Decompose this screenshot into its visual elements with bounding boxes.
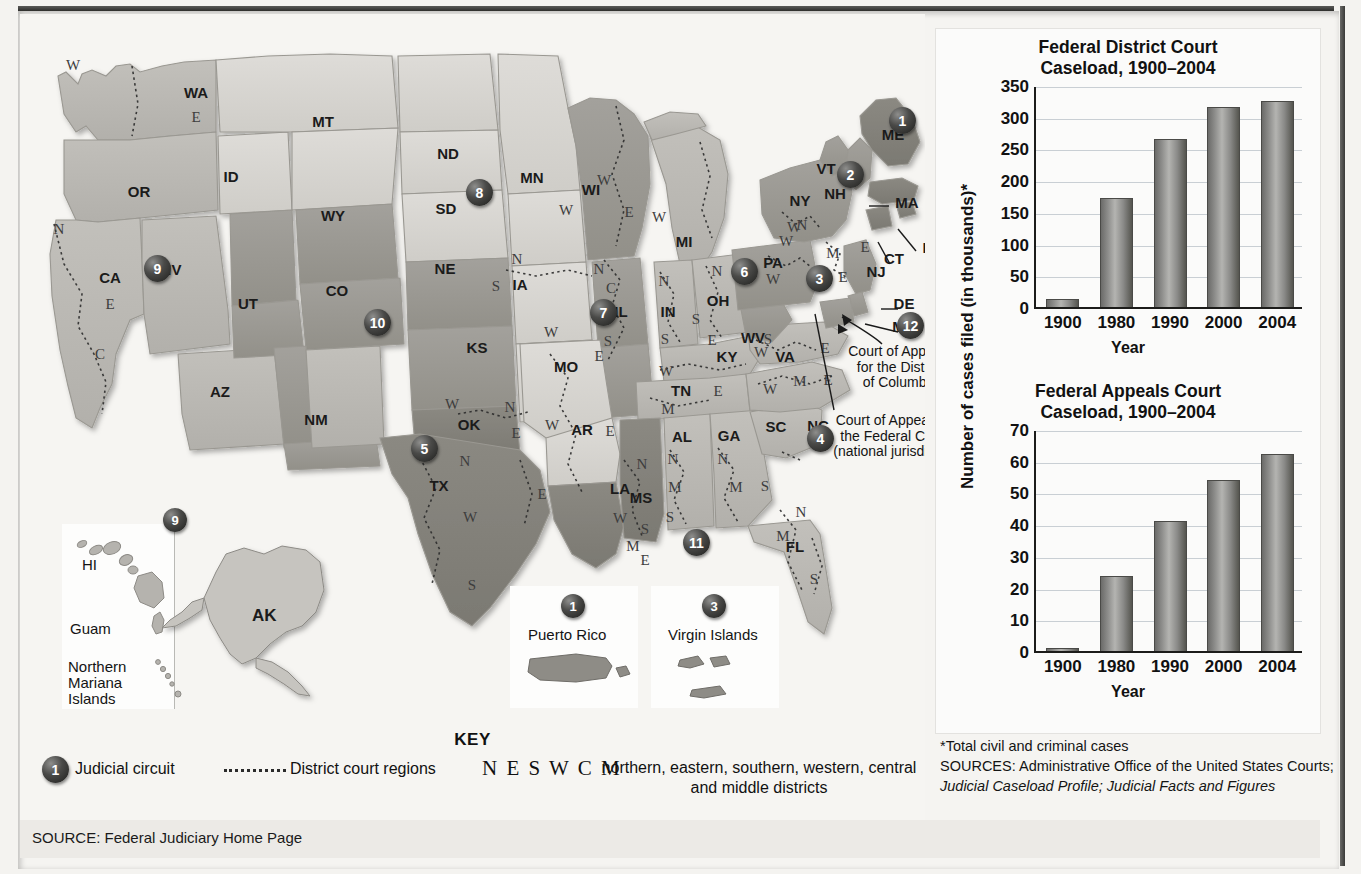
chart-footnote: *Total civil and criminal cases <box>940 736 1340 756</box>
state-label-ga: GA <box>718 427 741 444</box>
district-letter: C <box>606 280 616 296</box>
badge-virgin-islands[interactable]: 3 <box>702 594 726 618</box>
state-label-tn: TN <box>671 382 691 399</box>
chart-notes: *Total civil and criminal cases SOURCES:… <box>940 736 1340 796</box>
map-panel: WAORIDMTWYNVCAUTCOAZNMNDSDNEKSOKTXMNIAMO… <box>20 14 925 726</box>
state-label-va: VA <box>775 348 795 365</box>
state-label-al: AL <box>672 428 692 445</box>
bar-1990 <box>1154 139 1187 307</box>
circuit-badge-6[interactable]: 6 <box>731 258 758 285</box>
chart-sources-line2: Judicial Caseload Profile; Judicial Fact… <box>940 776 1340 796</box>
key-circuit-badge: 1 <box>42 756 69 783</box>
state-label-sd: SD <box>436 200 457 217</box>
circuit-badge-10[interactable]: 10 <box>364 309 391 336</box>
inset-label-virgin-islands: Virgin Islands <box>668 627 758 643</box>
district-letter: W <box>597 172 612 188</box>
district-letter: S <box>764 331 772 347</box>
circuit-badge-7[interactable]: 7 <box>590 299 617 326</box>
district-letter: N <box>712 263 723 279</box>
district-letter: S <box>692 311 700 327</box>
y-tick-label: 300 <box>1001 108 1029 128</box>
charts-panel: Number of cases filed (in thousands)* Fe… <box>935 28 1321 734</box>
page-root: WAORIDMTWYNVCAUTCOAZNMNDSDNEKSOKTXMNIAMO… <box>0 0 1361 874</box>
inset-label-nmi-2: Mariana <box>68 675 122 691</box>
circuit-badge-1[interactable]: 1 <box>889 107 916 134</box>
district-letter: S <box>761 478 769 494</box>
y-tick-label: 40 <box>1010 516 1029 536</box>
key-district-label: District court regions <box>290 760 436 778</box>
district-letter: S <box>604 333 612 349</box>
state-label-mn: MN <box>520 169 543 186</box>
map-note-line: Court of Appeals for <box>810 413 925 429</box>
badge-pacific-territories[interactable]: 9 <box>163 508 187 532</box>
state-label-oh: OH <box>707 292 730 309</box>
source-strip: SOURCE: Federal Judiciary Home Page <box>20 820 1320 858</box>
district-letter: M <box>668 479 681 495</box>
state-label-in: IN <box>661 303 676 320</box>
district-letter: W <box>463 509 478 525</box>
y-tick-label: 10 <box>1010 611 1029 631</box>
state-label-ms: MS <box>630 489 653 506</box>
circuit-badge-5[interactable]: 5 <box>411 435 438 462</box>
chart-1-title-line2: Caseload, 1900–2004 <box>936 58 1320 79</box>
district-letter: S <box>810 571 818 587</box>
state-label-nj: NJ <box>866 263 885 280</box>
circuit-badge-8[interactable]: 8 <box>466 179 493 206</box>
circuit-badge-11[interactable]: 11 <box>683 529 710 556</box>
x-tick-label-1990: 1990 <box>1151 313 1189 333</box>
key-title: KEY <box>20 730 925 750</box>
y-tick-label: 70 <box>1010 421 1029 441</box>
gridline <box>1036 431 1302 432</box>
map-note-line: Court of Appeals <box>820 344 925 360</box>
state-label-az: AZ <box>210 383 230 400</box>
badge-puerto-rico[interactable]: 1 <box>561 594 585 618</box>
inset-label-nmi-1: Northern <box>68 659 126 675</box>
circuit-badge-2[interactable]: 2 <box>837 161 864 188</box>
state-label-ia: IA <box>513 276 528 293</box>
district-letter: W <box>779 233 794 249</box>
district-letter: N <box>796 504 807 520</box>
x-tick-label-1980: 1980 <box>1097 313 1135 333</box>
x-tick-label-2004: 2004 <box>1258 657 1296 677</box>
district-letter: N <box>594 261 605 277</box>
state-label-pa: PA <box>763 254 783 271</box>
state-label-mi: MI <box>676 233 693 250</box>
district-letter: W <box>659 363 674 379</box>
inset-label-guam: Guam <box>70 621 111 637</box>
circuit-badge-12[interactable]: 12 <box>897 312 924 339</box>
state-label-sc: SC <box>766 418 787 435</box>
bar-1980 <box>1100 576 1133 651</box>
state-label-mo: MO <box>554 358 578 375</box>
district-letter: E <box>105 296 114 312</box>
circuit-badge-3[interactable]: 3 <box>806 265 833 292</box>
district-letter: S <box>641 521 649 537</box>
y-tick-label: 30 <box>1010 547 1029 567</box>
district-letter: W <box>763 381 778 397</box>
bar-2004 <box>1261 454 1294 651</box>
bar-2000 <box>1207 480 1240 651</box>
state-label-la: LA <box>610 480 630 497</box>
state-label-ky: KY <box>717 348 738 365</box>
district-letter: S <box>661 331 669 347</box>
state-label-nm: NM <box>304 411 327 428</box>
inset-label-nmi-3: Islands <box>68 691 116 707</box>
bar-2000 <box>1207 107 1240 307</box>
inset-label-hi: HI <box>82 557 97 573</box>
state-label-ma: MA <box>895 194 918 211</box>
state-label-or: OR <box>128 183 151 200</box>
district-letter: N <box>668 451 679 467</box>
district-letter: N <box>505 399 516 415</box>
circuit-badge-9[interactable]: 9 <box>144 255 171 282</box>
district-letter: N <box>797 217 808 233</box>
district-letter: N <box>637 456 648 472</box>
key-neswcm-description: northern, eastern, southern, western, ce… <box>594 758 924 798</box>
district-letter: E <box>640 552 649 568</box>
district-letter: M <box>729 479 742 495</box>
source-text: SOURCE: Federal Judiciary Home Page <box>32 829 302 846</box>
state-label-ut: UT <box>238 295 258 312</box>
state-label-ks: KS <box>467 339 488 356</box>
state-label-wy: WY <box>321 207 345 224</box>
x-tick-label-1990: 1990 <box>1151 657 1189 677</box>
district-letter: E <box>605 423 614 439</box>
x-tick-label-1900: 1900 <box>1044 657 1082 677</box>
